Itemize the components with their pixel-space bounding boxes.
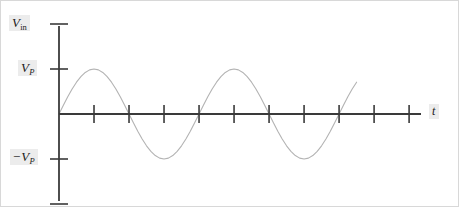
plot-canvas [1,1,459,207]
x-axis-label-t: t [429,104,439,119]
y-axis-label-negative-vp: −VP [10,149,38,165]
y-axis-label-vin: Vin [9,15,30,31]
y-axis-label-vp: VP [18,60,37,76]
waveform-figure: Vin VP −VP t [0,0,459,207]
